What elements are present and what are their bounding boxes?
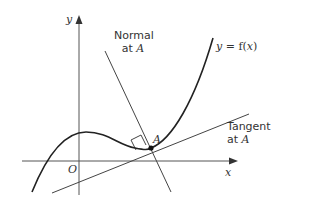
normal-label-prefix: at — [122, 42, 137, 55]
tangent-label: Tangent at A — [227, 120, 271, 146]
tangent-line — [52, 114, 249, 193]
point-a-label: A — [153, 133, 161, 146]
curve-label-f: f( — [238, 40, 246, 53]
point-a — [148, 145, 153, 150]
curve-label: y = f(x) — [216, 40, 257, 53]
curve-label-eq: = — [222, 40, 238, 53]
normal-line — [105, 51, 171, 192]
y-axis-label: y — [66, 13, 72, 26]
tangent-label-line2: at A — [227, 133, 271, 146]
curve-f — [32, 38, 213, 192]
normal-label-point: A — [136, 42, 144, 55]
normal-label-line1: Normal — [114, 29, 152, 42]
tangent-label-prefix: at — [227, 133, 242, 146]
y-axis-arrow-icon — [76, 15, 83, 24]
origin-label: O — [68, 163, 77, 176]
normal-label: Normal at A — [114, 29, 152, 55]
x-axis-arrow-icon — [229, 158, 238, 165]
tangent-label-line1: Tangent — [227, 120, 271, 133]
x-axis-label: x — [225, 166, 231, 179]
tangent-label-point: A — [242, 133, 250, 146]
curve-label-close: ) — [253, 40, 257, 53]
normal-label-line2: at A — [114, 42, 152, 55]
